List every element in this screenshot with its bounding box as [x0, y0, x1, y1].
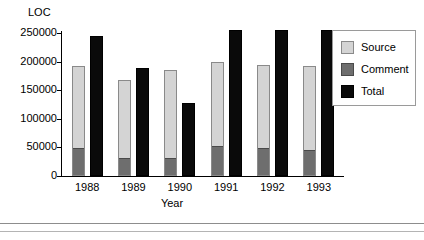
x-axis-line [61, 176, 344, 177]
x-tick-label: 1988 [67, 181, 107, 193]
bar-comment [165, 158, 176, 175]
bar-comment [212, 146, 223, 175]
legend-item-comment: Comment [341, 62, 409, 76]
legend-label-comment: Comment [361, 63, 409, 75]
bar-group [303, 33, 334, 176]
bar-group [211, 33, 242, 176]
bar-source [164, 70, 177, 176]
y-tick-label: 150000 [20, 84, 57, 95]
x-tick-label: 1993 [299, 181, 339, 193]
footer-rule-primary [0, 223, 424, 224]
bar-source [303, 66, 316, 176]
y-axis-tick-labels: 050000100000150000200000250000 [0, 33, 57, 176]
bar-comment [73, 148, 84, 175]
chart-legend: Source Comment Total [332, 30, 416, 106]
legend-item-total: Total [341, 84, 384, 98]
y-tick-label: 50000 [26, 141, 57, 152]
plot-area [62, 33, 340, 176]
y-axis-title: LOC [28, 6, 51, 18]
bar-total [182, 103, 195, 176]
y-tick-label: 100000 [20, 113, 57, 124]
y-tick-label: 200000 [20, 56, 57, 67]
bar-comment [258, 148, 269, 175]
legend-label-source: Source [361, 41, 396, 53]
bar-comment [119, 158, 130, 175]
bar-group [72, 33, 103, 176]
bar-total [136, 68, 149, 176]
x-tick-label: 1989 [114, 181, 154, 193]
bar-total [275, 30, 288, 176]
bar-chart: LOC 050000100000150000200000250000 19881… [0, 0, 424, 240]
bar-group [257, 33, 288, 176]
bar-source [118, 80, 131, 176]
x-axis-title: Year [0, 197, 344, 209]
x-tick-label: 1991 [206, 181, 246, 193]
x-tick-label: 1992 [253, 181, 293, 193]
legend-swatch-total-icon [341, 85, 354, 98]
bar-source [257, 65, 270, 176]
bar-comment [304, 150, 315, 175]
bar-source [72, 66, 85, 176]
legend-swatch-comment-icon [341, 63, 354, 76]
bar-source [211, 62, 224, 176]
y-tick-label: 250000 [20, 27, 57, 38]
bar-total [90, 36, 103, 176]
x-tick-label: 1990 [160, 181, 200, 193]
bar-group [164, 33, 195, 176]
legend-swatch-source-icon [341, 41, 354, 54]
legend-label-total: Total [361, 85, 384, 97]
bar-group [118, 33, 149, 176]
legend-item-source: Source [341, 40, 396, 54]
footer-rule-secondary [0, 231, 424, 232]
bar-total [229, 30, 242, 176]
